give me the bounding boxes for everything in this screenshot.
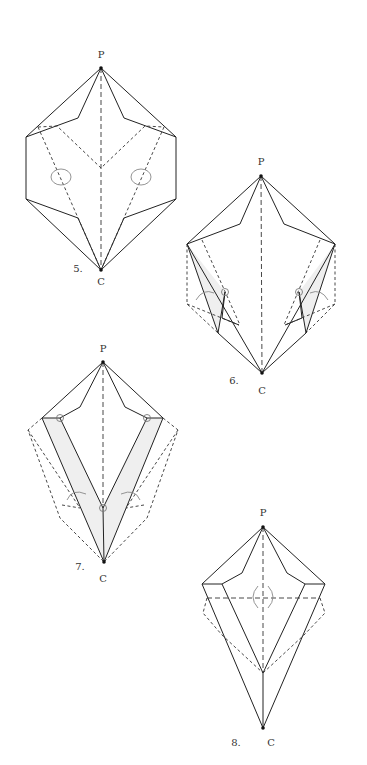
figure-7: P 7. C bbox=[28, 343, 178, 584]
fig5-top-label: P bbox=[98, 49, 105, 60]
figure-8: P 8. C bbox=[202, 507, 325, 748]
fig8-bottom-label: C bbox=[267, 737, 275, 748]
fig8-step-number: 8. bbox=[231, 737, 241, 748]
fig7-bottom-label: C bbox=[99, 573, 107, 584]
fig5-step-number: 5. bbox=[73, 263, 83, 274]
figure-5: P 5. C bbox=[26, 49, 176, 287]
fig7-top-label: P bbox=[100, 343, 107, 354]
fig6-top-label: P bbox=[258, 156, 265, 167]
fig6-bottom-label: C bbox=[258, 385, 266, 396]
fig5-bottom-label: C bbox=[97, 276, 105, 287]
figure-6: P 6. C bbox=[187, 156, 335, 396]
fig6-step-number: 6. bbox=[229, 375, 239, 386]
origami-diagram: P 5. C P 6. C bbox=[0, 0, 367, 765]
fig7-step-number: 7. bbox=[75, 561, 85, 572]
fig8-top-label: P bbox=[260, 507, 267, 518]
